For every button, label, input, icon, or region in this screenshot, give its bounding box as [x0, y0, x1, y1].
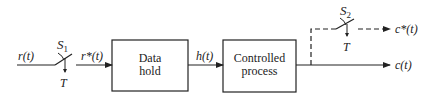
controlled-process-line2: process [242, 64, 278, 78]
data-hold-line2: hold [139, 64, 160, 78]
switch-s2-label: S2 [340, 3, 351, 20]
block-diagram: r(t) S1 T r*(t) Data hold h(t) Controlle… [0, 0, 432, 98]
sampled-output-label: c*(t) [395, 22, 418, 36]
sampled-input-label: r*(t) [81, 49, 103, 63]
data-hold-line1: Data [139, 51, 162, 65]
sampler-switch-s1: S1 T [55, 37, 72, 90]
sampled-output-path: S2 T c*(t) [311, 3, 418, 65]
switch-s2-period-label: T [343, 40, 351, 54]
data-hold-block: Data hold [112, 40, 188, 91]
hold-output-signal: h(t) [188, 49, 223, 65]
input-signal: r(t) [17, 49, 55, 65]
input-label: r(t) [18, 49, 34, 63]
switch-s1-period-label: T [60, 76, 68, 90]
output-signal: c(t) [296, 58, 412, 72]
hold-output-label: h(t) [196, 49, 213, 63]
controlled-process-line1: Controlled [234, 51, 285, 65]
controlled-process-block: Controlled process [223, 40, 296, 92]
sampled-input-signal: r*(t) [76, 49, 112, 65]
output-label: c(t) [395, 58, 412, 72]
switch-s1-label: S1 [57, 37, 68, 54]
